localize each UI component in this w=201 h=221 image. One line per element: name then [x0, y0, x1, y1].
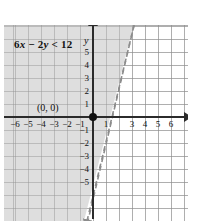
x-tick-label: −4	[36, 120, 46, 129]
inequality-constant: 12	[61, 38, 72, 50]
inequality-graph-figure: −6 −5 −4 −3 −2 −1 1 3 4 5 6 5 4 3 2 1 −1…	[0, 0, 201, 221]
y-tick-label: −1	[74, 126, 89, 135]
y-tick-label: 3	[76, 74, 89, 83]
x-tick-label: 4	[143, 120, 148, 129]
x-tick-label: −6	[10, 120, 20, 129]
inequality-annotation: 6x − 2y < 12	[14, 39, 72, 50]
y-tick-label: −4	[74, 165, 89, 174]
x-axis-arrow-icon	[184, 112, 188, 122]
x-tick-label: −2	[62, 120, 72, 129]
x-tick-label: −3	[49, 120, 59, 129]
y-axis-arrow-icon	[88, 25, 98, 26]
y-tick-label: −3	[74, 152, 89, 161]
x-tick-label: 3	[130, 120, 135, 129]
y-tick-label: 2	[76, 87, 89, 96]
test-point-label: (0, 0)	[37, 103, 59, 113]
y-tick-label: −5	[74, 178, 89, 187]
inequality-var-x: x	[20, 38, 26, 50]
y-tick-label: 1	[76, 100, 89, 109]
y-axis-label: y	[84, 36, 88, 46]
test-point-dot	[89, 113, 97, 121]
x-tick-label: 1	[104, 120, 109, 129]
x-tick-label: 5	[156, 120, 161, 129]
x-tick-label: 6	[169, 120, 174, 129]
plot-area: −6 −5 −4 −3 −2 −1 1 3 4 5 6 5 4 3 2 1 −1…	[4, 25, 188, 221]
inequality-relation: <	[52, 38, 58, 50]
y-axis	[92, 25, 94, 219]
inequality-operator: −	[28, 38, 34, 50]
y-tick-label: 5	[76, 48, 89, 57]
y-tick-label: 4	[76, 61, 89, 70]
x-tick-label: −5	[23, 120, 33, 129]
inequality-var-y: y	[43, 38, 48, 50]
y-tick-label: −2	[74, 139, 89, 148]
